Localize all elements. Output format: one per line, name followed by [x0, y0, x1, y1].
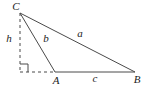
side-label-b: b	[43, 33, 49, 44]
vertex-label-a: A	[53, 75, 60, 86]
altitude-label-h: h	[6, 33, 12, 44]
triangle-diagram: C h b a A c B	[0, 0, 150, 90]
side-label-a: a	[77, 28, 83, 39]
vertex-label-b: B	[134, 74, 141, 85]
side-label-c: c	[93, 73, 98, 84]
right-angle-mark	[20, 64, 28, 72]
vertex-label-c: C	[12, 1, 19, 12]
triangle-svg	[0, 0, 150, 90]
